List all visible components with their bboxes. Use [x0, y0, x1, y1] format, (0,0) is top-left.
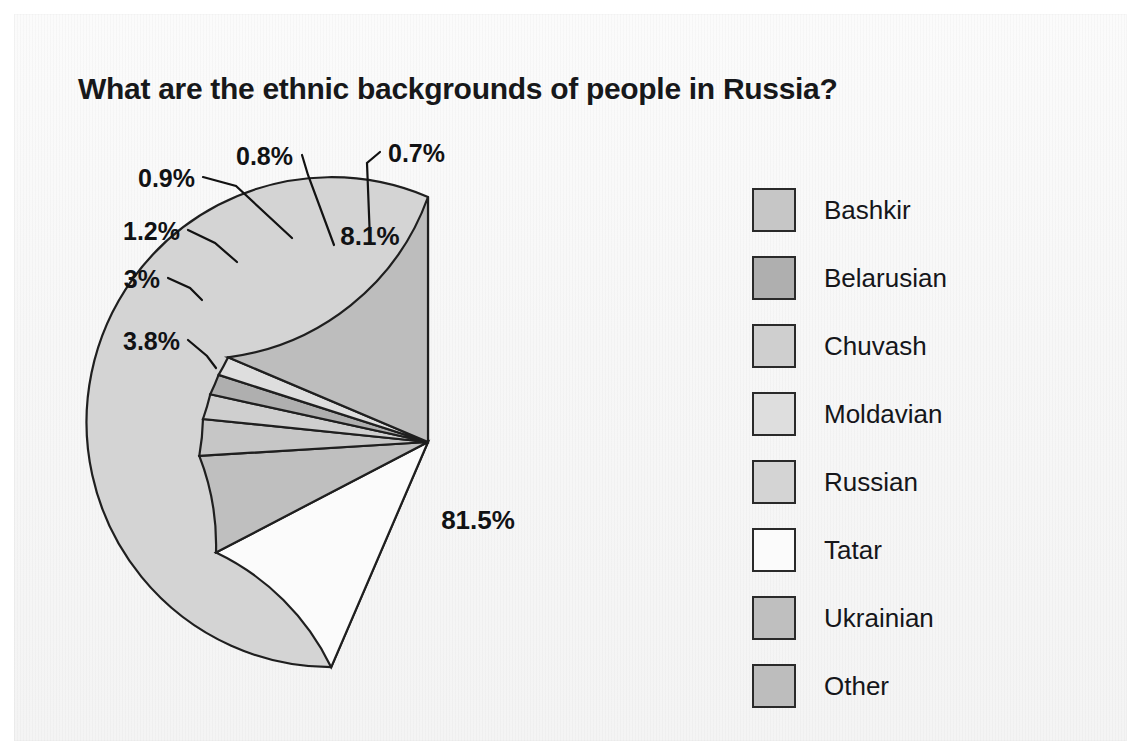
- pie-label-chuvash: 0.9%: [138, 164, 195, 192]
- legend-item-other[interactable]: Other: [752, 652, 1052, 720]
- legend-swatch-icon: [752, 324, 796, 368]
- legend-swatch-icon: [752, 392, 796, 436]
- legend-item-label: Bashkir: [824, 195, 911, 226]
- legend-item-belarusian[interactable]: Belarusian: [752, 244, 1052, 312]
- legend-swatch-icon: [752, 188, 796, 232]
- legend-item-label: Moldavian: [824, 399, 943, 430]
- pie-chart-svg: 0.7% 0.8% 0.9% 1.2% 3% 3.8% 8.1% 81.5%: [40, 120, 740, 720]
- pie-label-ukrainian: 3%: [124, 265, 160, 293]
- pie-label-russian: 81.5%: [441, 505, 515, 535]
- legend-item-label: Tatar: [824, 535, 882, 566]
- pie-label-belarusian: 0.8%: [236, 142, 293, 170]
- legend-item-chuvash[interactable]: Chuvash: [752, 312, 1052, 380]
- legend-swatch-icon: [752, 664, 796, 708]
- legend-item-label: Chuvash: [824, 331, 927, 362]
- legend-item-label: Other: [824, 671, 889, 702]
- legend-swatch-icon: [752, 460, 796, 504]
- legend-swatch-icon: [752, 596, 796, 640]
- chart-page: What are the ethnic backgrounds of peopl…: [0, 0, 1141, 755]
- legend-item-moldavian[interactable]: Moldavian: [752, 380, 1052, 448]
- pie-chart-area: 0.7% 0.8% 0.9% 1.2% 3% 3.8% 8.1% 81.5%: [40, 120, 740, 720]
- pie-label-other: 8.1%: [340, 221, 399, 251]
- page-title: What are the ethnic backgrounds of peopl…: [78, 72, 978, 106]
- legend: Bashkir Belarusian Chuvash Moldavian Rus…: [752, 176, 1052, 720]
- legend-item-russian[interactable]: Russian: [752, 448, 1052, 516]
- legend-swatch-icon: [752, 528, 796, 572]
- legend-item-label: Russian: [824, 467, 918, 498]
- pie-label-moldavian: 0.7%: [388, 139, 445, 167]
- legend-item-tatar[interactable]: Tatar: [752, 516, 1052, 584]
- legend-item-label: Belarusian: [824, 263, 947, 294]
- legend-item-bashkir[interactable]: Bashkir: [752, 176, 1052, 244]
- pie-label-bashkir: 1.2%: [123, 217, 180, 245]
- legend-item-ukrainian[interactable]: Ukrainian: [752, 584, 1052, 652]
- pie-label-tatar: 3.8%: [123, 327, 180, 355]
- legend-swatch-icon: [752, 256, 796, 300]
- legend-item-label: Ukrainian: [824, 603, 934, 634]
